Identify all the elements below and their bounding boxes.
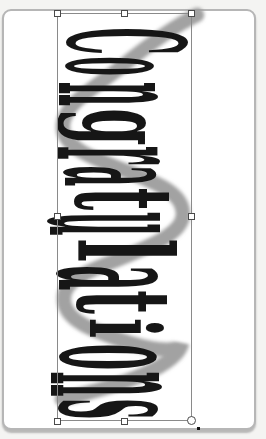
wordart-letter: g (55, 108, 194, 145)
wordart-letter: n (2, 371, 246, 396)
selection-handle-top-center[interactable] (121, 10, 128, 17)
wordart-object[interactable]: Congratulations (0, 0, 266, 439)
wordart-letter: i (67, 318, 181, 338)
wordart-letter: a (15, 265, 234, 290)
application-canvas: Congratulations Congratulations (0, 0, 266, 439)
selection-handle-middle-right[interactable] (188, 213, 195, 220)
selection-handle-bottom-left[interactable] (54, 418, 61, 425)
wordart-letter: t (47, 290, 202, 314)
wordart-letter: a (24, 166, 224, 186)
wordart-letter: o (20, 344, 229, 370)
wordart-letter: n (16, 82, 233, 106)
wordart-letter: t (44, 188, 205, 211)
selection-handle-middle-left[interactable] (54, 213, 61, 220)
selection-handle-bottom-center[interactable] (121, 418, 128, 425)
wordart-letter: C (29, 27, 220, 54)
wordart-letter: o (28, 56, 220, 75)
selection-handle-bottom-right[interactable] (187, 416, 196, 425)
wordart-letter: s (18, 399, 232, 419)
wordart-letter: r (11, 146, 238, 164)
wordart-letter: u (0, 212, 249, 236)
selection-handle-top-right[interactable] (188, 10, 195, 17)
wordart-letter: l (48, 238, 201, 262)
mouse-cursor (197, 427, 200, 430)
wordart-letters: Congratulations (0, 27, 249, 419)
selection-handle-top-left[interactable] (54, 10, 61, 17)
